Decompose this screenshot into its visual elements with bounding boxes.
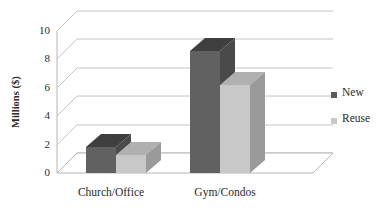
chart-canvas bbox=[0, 0, 382, 214]
chart-container: Millions ($) 10 8 6 4 2 0 Church/Office … bbox=[0, 0, 382, 214]
y-tick-label-10: 10 bbox=[24, 24, 50, 36]
y-tick-label-2: 2 bbox=[24, 138, 50, 150]
y-tick-label-8: 8 bbox=[24, 52, 50, 64]
legend-swatch-reuse bbox=[331, 118, 337, 124]
x-category-label-gym-condos: Gym/Condos bbox=[170, 186, 280, 198]
legend-label-reuse: Reuse bbox=[342, 112, 370, 124]
y-axis-title: Millions ($) bbox=[10, 76, 21, 128]
y-tick-label-4: 4 bbox=[24, 109, 50, 121]
y-tick-label-0: 0 bbox=[24, 166, 50, 178]
bar-reuse-gym-condos bbox=[220, 72, 265, 173]
legend-swatch-new bbox=[331, 92, 337, 98]
y-tick-label-6: 6 bbox=[24, 81, 50, 93]
x-category-label-church-office: Church/Office bbox=[56, 186, 166, 198]
legend-label-new: New bbox=[342, 86, 364, 98]
